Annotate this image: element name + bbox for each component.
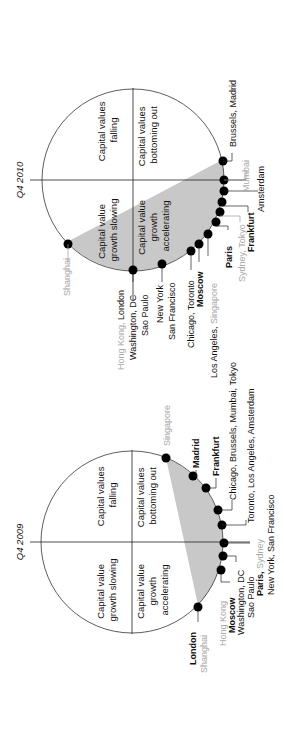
label-washington: Washington, DC [128, 294, 138, 360]
label-amsterdam: Amsterdam [256, 166, 266, 212]
label-shanghai: Shanghai [199, 635, 209, 673]
label-brussels-madrid: Brussels, Madrid [228, 80, 238, 147]
dot-hongkong-london [129, 266, 138, 275]
diagram-title: Q4 2010 [14, 161, 25, 198]
label-chicago-brussels: Chicago, Brussels, Mumbai, Tokyo [228, 362, 238, 500]
diagram-q4-2009: Q4 2009 Capital value growth slowing Cap… [14, 362, 276, 673]
label-sanfrancisco: San Francisco [167, 282, 177, 340]
label-frankfurt: Frankfurt [246, 212, 256, 252]
label-shanghai: Shanghai [62, 258, 72, 296]
label-hongkong-london: Hong Kong, London [116, 290, 126, 370]
quadrant-label: Capital values [95, 466, 106, 526]
svg-text:Capital values falling: Capital values falling [96, 99, 119, 161]
dot-newyork [158, 260, 167, 269]
svg-text:Capital values bottomi: Capital values bottoming out [135, 465, 158, 527]
dot-singapore [162, 454, 171, 463]
label-toronto-la-amsterdam: Toronto, Los Angeles, Amsterdam [246, 388, 256, 523]
svg-text:Capital values bottomi: Capital values bottoming out [136, 104, 159, 166]
label-frankfurt: Frankfurt [211, 436, 221, 476]
quadrant-label: growth [147, 577, 158, 606]
svg-text:Capital value growth s: Capital value growth slowing [96, 199, 119, 262]
quadrant-label: growth [148, 213, 159, 242]
quadrant-label: Capital value [95, 564, 106, 619]
label-london: London [188, 632, 198, 665]
dot-paris [212, 218, 221, 227]
svg-text:Capital values falling: Capital values falling [95, 464, 118, 526]
label-paris: Paris [224, 246, 234, 268]
quadrant-label: Capital value [136, 200, 147, 255]
dot-frankfurt [218, 198, 227, 207]
quadrant-label: growth slowing [108, 199, 119, 262]
label-singapore: Singapore [162, 405, 172, 446]
quadrant-label: Capital values [135, 467, 146, 527]
quadrant-label: falling [107, 483, 118, 508]
label-saopaulo: Sao Paulo [140, 294, 150, 336]
dot-la-singapore [204, 230, 213, 239]
dot-london-shanghai [194, 603, 203, 612]
label-newyork-sanfrancisco: New York, San Francisco [266, 494, 276, 595]
label-newyork: New York [155, 284, 165, 323]
quadrant-label: Capital value [135, 564, 146, 619]
dot-chicago-toronto [187, 247, 196, 256]
quadrant-label: Capital values [136, 106, 147, 166]
quadrant-label: accelerating [160, 200, 171, 251]
property-clock-figure: Q4 2010 Capital value growth slowing Cap… [0, 0, 284, 754]
svg-text:Capital value growth s: Capital value growth slowing [95, 559, 118, 622]
quadrant-label: growth slowing [107, 559, 118, 622]
svg-text:Capital value growth: Capital value growth accelerating [135, 561, 170, 619]
dot-moscow [195, 240, 204, 249]
quadrant-label: bottoming out [147, 467, 158, 525]
label-washington: Washington, DC [236, 569, 246, 635]
quadrant-label: bottoming out [148, 106, 159, 164]
quadrant-label: accelerating [159, 564, 170, 615]
label-moscow: Moscow [195, 270, 205, 307]
dot-sydney-tokyo [216, 208, 225, 217]
dot-hongkong-moscow [217, 566, 226, 575]
quadrant-label: Capital value [96, 204, 107, 259]
quadrant-labels: Capital value growth slowing Capital val… [95, 464, 170, 622]
quadrant-label: falling [108, 118, 119, 143]
label-paris-sydney: Paris, Sydney [255, 538, 265, 596]
label-mumbai: Mumbai [241, 160, 251, 192]
diagram-title: Q4 2009 [14, 523, 25, 560]
diagram-q4-2010: Q4 2010 Capital value growth slowing Cap… [14, 80, 266, 378]
quadrant-label: Capital values [96, 101, 107, 161]
label-la-singapore: Los Angeles, Singapore [209, 283, 219, 378]
label-madrid: Madrid [191, 438, 201, 468]
